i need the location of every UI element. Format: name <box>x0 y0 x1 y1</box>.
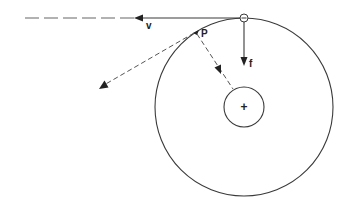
radial-arrowhead-icon <box>215 65 222 75</box>
point-p-marker-icon <box>193 30 199 35</box>
tangent-arrowhead-icon <box>99 81 109 90</box>
tangent-dashed-line <box>104 33 194 85</box>
point-p-label: P <box>201 28 208 39</box>
radial-dashed-line <box>197 34 233 89</box>
velocity-label: v <box>146 20 152 31</box>
orbit-diagram: + v f P <box>0 0 347 206</box>
nucleus-plus-sign: + <box>240 100 247 114</box>
velocity-arrowhead-icon <box>134 15 143 22</box>
force-arrowhead-icon <box>241 57 248 66</box>
force-label: f <box>249 58 253 69</box>
